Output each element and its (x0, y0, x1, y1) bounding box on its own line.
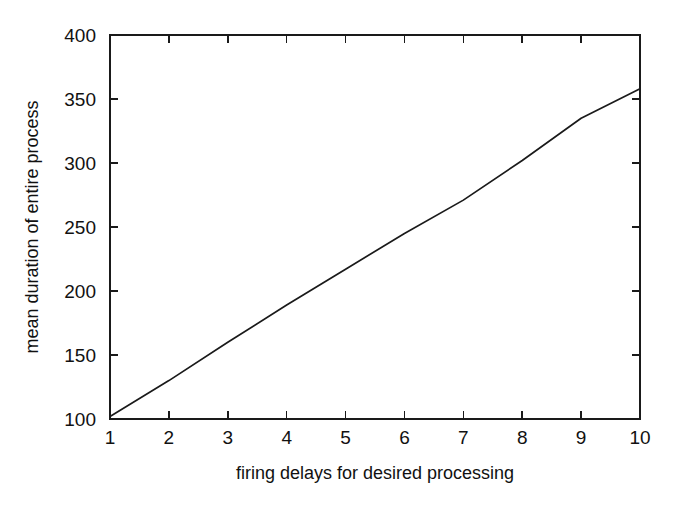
y-tick-label: 300 (64, 153, 96, 174)
x-axis-title: firing delays for desired processing (236, 463, 514, 483)
y-tick-label: 100 (64, 409, 96, 430)
x-tick-label: 4 (281, 427, 292, 448)
y-axis-title: mean duration of entire process (22, 100, 42, 353)
x-tick-label: 7 (458, 427, 469, 448)
x-tick-label: 1 (105, 427, 116, 448)
axis-frame-path (110, 35, 640, 419)
axes-frame (110, 35, 640, 419)
y-axis-ticks (110, 99, 640, 355)
y-axis-tick-labels: 100150200250300350400 (64, 25, 96, 430)
chart-figure: 100150200250300350400 12345678910 firing… (0, 0, 678, 510)
x-tick-label: 6 (399, 427, 410, 448)
x-tick-label: 8 (517, 427, 528, 448)
x-tick-label: 5 (340, 427, 351, 448)
x-tick-label: 3 (222, 427, 233, 448)
data-series-line (110, 89, 640, 417)
y-tick-label: 400 (64, 25, 96, 46)
y-tick-label: 250 (64, 217, 96, 238)
chart-plot-svg: 100150200250300350400 12345678910 firing… (0, 0, 678, 510)
y-tick-label: 200 (64, 281, 96, 302)
x-tick-label: 2 (164, 427, 175, 448)
x-tick-label: 10 (629, 427, 650, 448)
x-axis-tick-labels: 12345678910 (105, 427, 651, 448)
y-tick-label: 150 (64, 345, 96, 366)
y-tick-label: 350 (64, 89, 96, 110)
x-axis-ticks (169, 35, 581, 419)
x-tick-label: 9 (576, 427, 587, 448)
